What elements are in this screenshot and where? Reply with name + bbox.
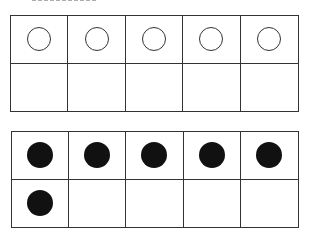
frame-cell: [184, 132, 241, 180]
frame-cell: [12, 132, 69, 180]
filled-circle-icon: [199, 142, 225, 168]
frame-cell: [126, 16, 183, 64]
empty-circle-icon: [27, 27, 51, 51]
filled-circle-icon: [141, 142, 167, 168]
filled-circle-icon: [27, 190, 53, 216]
frame-cell: [68, 16, 125, 64]
frame-cell: [68, 64, 125, 112]
filled-circle-icon: [84, 142, 110, 168]
frame-cell: [241, 180, 298, 228]
frame-cell: [11, 64, 68, 112]
frame-cell: [126, 132, 183, 180]
frame-cell: [241, 16, 298, 64]
frame-cell: [241, 64, 298, 112]
empty-circle-icon: [85, 27, 109, 51]
bottom-ten-frame: [11, 131, 299, 228]
empty-circle-icon: [199, 27, 223, 51]
filled-circle-icon: [256, 142, 282, 168]
frame-cell: [69, 132, 126, 180]
top-ten-frame: [10, 15, 299, 112]
frame-cell: [183, 16, 240, 64]
frame-cell: [69, 180, 126, 228]
frame-cell: [241, 132, 298, 180]
clipped-heading-text: [32, 0, 96, 2]
frame-cell: [126, 180, 183, 228]
empty-circle-icon: [257, 27, 281, 51]
frame-cell: [12, 180, 69, 228]
empty-circle-icon: [142, 27, 166, 51]
frame-cell: [184, 180, 241, 228]
filled-circle-icon: [27, 142, 53, 168]
frame-cell: [11, 16, 68, 64]
frame-cell: [183, 64, 240, 112]
frame-cell: [126, 64, 183, 112]
